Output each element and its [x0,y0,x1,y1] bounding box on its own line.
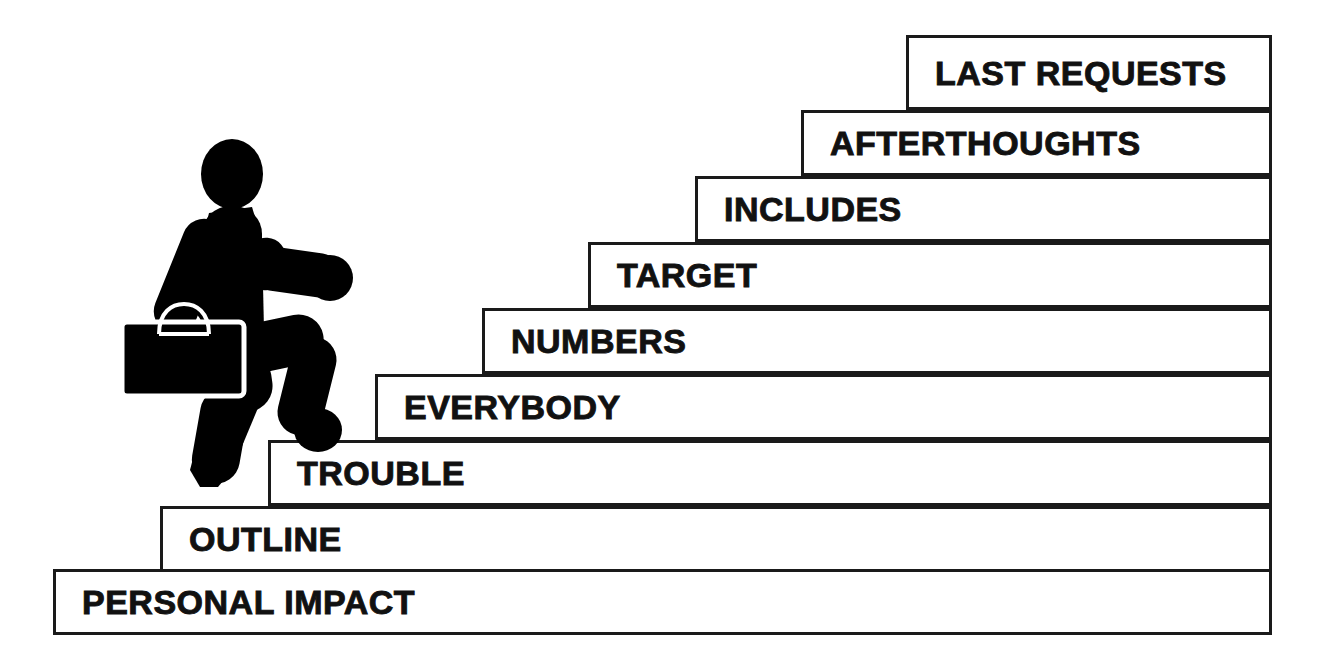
briefcase-body [122,322,244,396]
step-label: PERSONAL IMPACT [56,585,415,619]
briefcase-handle-highlight [159,304,209,334]
figure-torso [200,207,264,356]
step-outline[interactable]: OUTLINE [160,506,1272,572]
staircase-diagram: PERSONAL IMPACT OUTLINE TROUBLE EVERYBOD… [0,0,1333,666]
step-includes[interactable]: INCLUDES [695,176,1272,242]
step-label: TARGET [591,258,757,292]
step-numbers[interactable]: NUMBERS [482,308,1272,374]
step-label: LAST REQUESTS [909,56,1227,90]
figure-head [201,139,263,209]
step-trouble[interactable]: TROUBLE [268,440,1272,506]
figure-front-hand [307,255,353,301]
figure-front-shin [273,332,342,440]
step-everybody[interactable]: EVERYBODY [375,374,1272,440]
step-target[interactable]: TARGET [588,242,1272,308]
figure-front-arm [247,244,344,300]
figure-back-hand [159,313,193,347]
briefcase-handle [159,304,209,334]
step-label: OUTLINE [163,522,342,556]
figure-back-arm [147,212,233,340]
step-afterthoughts[interactable]: AFTERTHOUGHTS [801,110,1272,176]
figure-front-thigh-upper [240,318,318,372]
step-label: AFTERTHOUGHTS [804,126,1141,160]
figure-back-shin [188,385,252,488]
figure-front-thigh [236,310,329,376]
figure-front-shoulder [237,232,295,295]
step-label: TROUBLE [271,456,465,490]
figure-back-thigh [216,349,276,416]
figure-back-leg [190,370,268,487]
step-personal-impact[interactable]: PERSONAL IMPACT [53,569,1272,635]
step-last-requests[interactable]: LAST REQUESTS [906,35,1272,110]
figure-torso-core [202,206,262,356]
step-label: INCLUDES [698,192,902,226]
step-label: EVERYBODY [378,390,621,424]
briefcase-outline [122,322,244,396]
step-label: NUMBERS [485,324,686,358]
